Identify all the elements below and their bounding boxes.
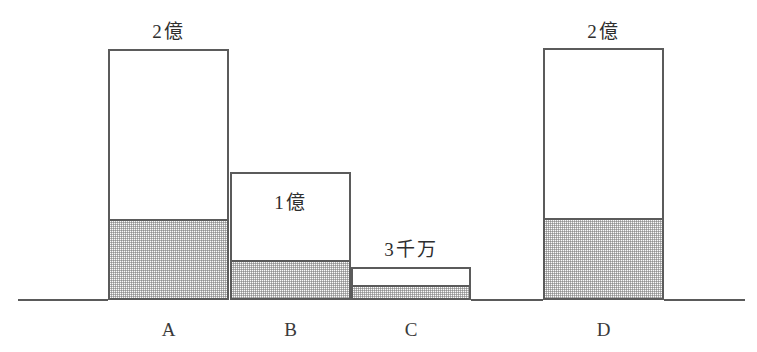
bar-a-category-label: A	[108, 320, 229, 339]
axis-baseline-left	[18, 299, 108, 301]
bar-b-value-label: 1億	[230, 193, 351, 212]
bar-a-upper-segment	[108, 49, 229, 221]
bar-c-shaded-segment	[351, 285, 471, 300]
bar-d-upper-segment	[543, 48, 664, 220]
bar-c[interactable]	[351, 267, 471, 300]
bar-b-category-label: B	[230, 320, 351, 339]
bar-b-shaded-segment	[230, 260, 351, 300]
bar-d-value-label: 2億	[543, 22, 664, 41]
bar-d-category-label: D	[543, 320, 664, 339]
bar-c-value-label: 3千万	[351, 240, 471, 259]
bar-chart-figure: 2億 A 1億 B 3千万 C 2億 D	[0, 0, 757, 352]
bar-d[interactable]	[543, 48, 664, 300]
bar-d-shaded-segment	[543, 218, 664, 300]
bar-a-shaded-segment	[108, 219, 229, 300]
bar-c-upper-segment	[351, 267, 471, 287]
axis-baseline-right	[664, 299, 745, 301]
bar-b-upper-segment	[230, 172, 351, 262]
bar-a-value-label: 2億	[108, 22, 229, 41]
axis-baseline-gap	[471, 299, 543, 301]
bar-c-category-label: C	[351, 320, 471, 339]
bar-a[interactable]	[108, 49, 229, 300]
